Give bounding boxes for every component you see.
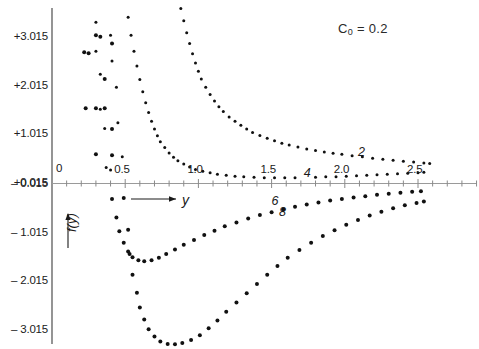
- data-point: [391, 206, 395, 210]
- axis-layer: [52, 8, 477, 344]
- data-point: [180, 341, 184, 345]
- data-point: [234, 301, 238, 305]
- series-2: [179, 7, 431, 165]
- data-point: [98, 35, 102, 39]
- axis-arrow-layer: [65, 196, 176, 248]
- data-point: [255, 282, 259, 286]
- data-point: [94, 106, 98, 110]
- data-point: [144, 101, 147, 104]
- data-point: [103, 127, 106, 130]
- y-tick-label: – 2.015: [0, 275, 48, 287]
- data-point: [215, 319, 219, 323]
- data-point: [136, 258, 140, 262]
- data-point: [94, 21, 97, 24]
- data-point: [121, 155, 124, 158]
- data-point: [355, 174, 358, 177]
- data-point: [185, 31, 188, 34]
- data-point: [99, 73, 102, 76]
- data-point: [251, 131, 254, 134]
- data-point: [127, 16, 130, 19]
- data-point: [305, 147, 308, 150]
- data-point: [117, 229, 121, 233]
- data-point: [147, 327, 151, 331]
- data-point: [131, 273, 135, 277]
- curve-label-8: 8: [279, 206, 286, 219]
- data-point: [273, 139, 276, 142]
- data-point: [163, 146, 166, 149]
- data-point: [197, 70, 200, 73]
- y-axis-name: f(y): [65, 213, 78, 232]
- data-point: [368, 214, 372, 218]
- data-point: [182, 243, 186, 247]
- x-tick-label: 2.5: [407, 164, 422, 176]
- y-tick-label: +3.015: [0, 31, 48, 43]
- data-point: [286, 256, 290, 260]
- data-dots-layer: [82, 7, 431, 346]
- chart-title: C0 = 0.2: [338, 22, 388, 37]
- data-point: [147, 111, 150, 114]
- data-point: [132, 50, 135, 53]
- data-point: [94, 50, 97, 53]
- data-point: [332, 152, 335, 155]
- data-point: [94, 33, 98, 37]
- data-point: [258, 134, 261, 137]
- data-point: [105, 166, 108, 169]
- data-point: [396, 172, 399, 175]
- data-point: [402, 160, 405, 163]
- data-point: [110, 42, 114, 46]
- data-point: [265, 273, 269, 277]
- data-point: [138, 78, 141, 81]
- data-point: [150, 120, 153, 123]
- series-4: [127, 16, 426, 179]
- y-tick-label: +2.015: [0, 80, 48, 92]
- data-point: [191, 52, 194, 55]
- data-point: [363, 194, 367, 198]
- data-point: [103, 77, 107, 81]
- data-point: [297, 248, 301, 252]
- data-point: [422, 171, 425, 174]
- data-point: [114, 216, 118, 220]
- data-point: [403, 203, 407, 207]
- curve-label-4: 4: [304, 167, 311, 180]
- data-point: [293, 205, 297, 209]
- data-point: [398, 191, 402, 195]
- data-point: [376, 173, 379, 176]
- data-point: [387, 192, 391, 196]
- origin-label: 0: [56, 163, 62, 175]
- data-point: [157, 256, 161, 260]
- data-point: [179, 7, 182, 10]
- data-point: [356, 218, 360, 222]
- data-point: [84, 106, 88, 110]
- y-tick-label: +1.015: [0, 128, 48, 140]
- series-6: [94, 21, 423, 264]
- data-point: [116, 121, 119, 124]
- data-point: [198, 333, 202, 337]
- data-point: [245, 291, 249, 295]
- data-point: [122, 196, 126, 200]
- data-point: [87, 51, 91, 55]
- data-point: [224, 310, 228, 314]
- data-point: [344, 223, 348, 227]
- data-point: [422, 199, 426, 203]
- data-point: [316, 200, 320, 204]
- plot-container: 0.51.01.52.02.5+3.015+2.015+1.015+0.015–…: [0, 0, 479, 349]
- data-point: [314, 176, 317, 179]
- data-point: [351, 154, 354, 157]
- data-point: [379, 210, 383, 214]
- data-point: [189, 338, 193, 342]
- data-point: [234, 120, 237, 123]
- data-point: [234, 175, 237, 178]
- data-point: [228, 115, 231, 118]
- data-point: [392, 159, 395, 162]
- data-point: [328, 199, 332, 203]
- data-point: [270, 210, 274, 214]
- data-point: [294, 176, 297, 179]
- data-point: [188, 42, 191, 45]
- data-point: [283, 176, 286, 179]
- data-point: [156, 134, 159, 137]
- data-point: [173, 248, 177, 252]
- data-point: [164, 252, 168, 256]
- data-point: [266, 137, 269, 140]
- y-tick-label: – 0.015: [0, 178, 48, 190]
- data-point: [246, 216, 250, 220]
